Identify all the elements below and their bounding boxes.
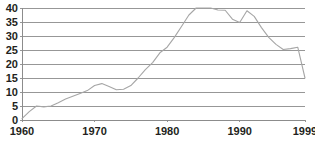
y-tick-label-40: 40 [6, 2, 18, 14]
x-tick-label-1970: 1970 [82, 125, 106, 137]
y-tick-label-5: 5 [12, 100, 18, 112]
chart-canvas: 0510152025303540 19601970198019901999 [0, 0, 315, 145]
y-tick-label-25: 25 [6, 44, 18, 56]
x-tick-label-1990: 1990 [227, 125, 251, 137]
y-tick-label-15: 15 [6, 72, 18, 84]
y-tick-label-35: 35 [6, 16, 18, 28]
x-tick-label-1960: 1960 [10, 125, 34, 137]
y-tick-label-30: 30 [6, 30, 18, 42]
y-tick-label-20: 20 [6, 58, 18, 70]
y-tick-label-10: 10 [6, 86, 18, 98]
x-tick-label-1999: 1999 [293, 125, 315, 137]
line-chart: 0510152025303540 19601970198019901999 [0, 0, 315, 145]
x-tick-label-1980: 1980 [155, 125, 179, 137]
